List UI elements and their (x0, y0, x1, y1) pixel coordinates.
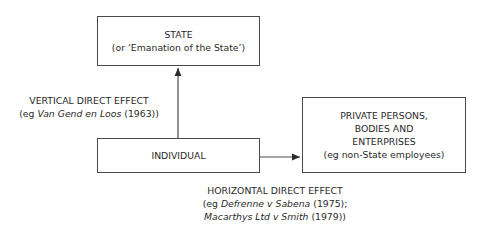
example-prefix: (eg (203, 198, 221, 209)
state-subtitle: (or ‘Emanation of the State’) (112, 41, 245, 54)
case-name: Macarthys Ltd v Smith (204, 211, 308, 222)
example-prefix: (eg (19, 108, 37, 119)
example-year: (1979)) (308, 211, 346, 222)
case-name: Van Gend en Loos (37, 108, 121, 119)
private-line-1: PRIVATE PERSONS, (340, 109, 428, 122)
private-line-3: ENTERPRISES (352, 135, 415, 148)
vertical-effect-label: VERTICAL DIRECT EFFECT (eg Van Gend en L… (4, 94, 174, 120)
vertical-effect-title: VERTICAL DIRECT EFFECT (4, 94, 174, 107)
private-box: PRIVATE PERSONS, BODIES AND ENTERPRISES … (302, 97, 466, 173)
horizontal-effect-title: HORIZONTAL DIRECT EFFECT (190, 184, 360, 197)
individual-box: INDIVIDUAL (97, 138, 260, 173)
individual-label: INDIVIDUAL (151, 149, 205, 162)
example-year: (1963)) (121, 108, 159, 119)
private-line-2: BODIES AND (355, 122, 414, 135)
private-line-4: (eg non-State employees) (324, 148, 445, 161)
state-title: STATE (164, 28, 192, 41)
horizontal-effect-example-2: Macarthys Ltd v Smith (1979)) (190, 210, 360, 223)
horizontal-effect-example-1: (eg Defrenne v Sabena (1975); (190, 197, 360, 210)
case-name: Defrenne v Sabena (221, 198, 310, 209)
vertical-effect-example: (eg Van Gend en Loos (1963)) (4, 107, 174, 120)
example-year: (1975); (310, 198, 347, 209)
state-box: STATE (or ‘Emanation of the State’) (97, 16, 260, 66)
horizontal-effect-label: HORIZONTAL DIRECT EFFECT (eg Defrenne v … (190, 184, 360, 223)
